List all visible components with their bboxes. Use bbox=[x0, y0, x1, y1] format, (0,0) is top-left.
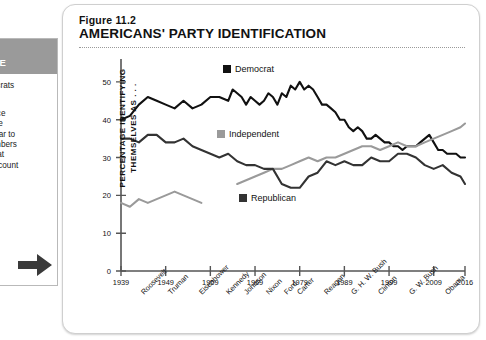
independent-swatch-icon bbox=[217, 130, 225, 138]
sidebar-body: mocrats d Since s the ppear to numbers W… bbox=[0, 74, 57, 203]
sidebar-paragraph-1: mocrats d bbox=[0, 81, 54, 102]
y-tick-30: 30 bbox=[95, 153, 111, 162]
sidebar-header-line-2: NCE bbox=[0, 57, 53, 68]
figure-title: AMERICANS' PARTY IDENTIFICATION bbox=[79, 26, 326, 41]
republican-swatch-icon bbox=[239, 194, 247, 202]
x-tick-1939: 1939 bbox=[113, 278, 129, 287]
y-tick-40: 40 bbox=[95, 115, 111, 124]
democrat-swatch-icon bbox=[223, 65, 231, 73]
sidebar-paragraph-2: Since s the ppear to numbers What t acco… bbox=[0, 109, 54, 192]
y-tick-10: 10 bbox=[95, 229, 111, 238]
figure-divider bbox=[79, 47, 465, 48]
legend-label-democrat: Democrat bbox=[235, 64, 274, 74]
sidebar-header-line-1: G bbox=[0, 46, 53, 57]
y-tick-0: 0 bbox=[95, 267, 111, 276]
legend-label-republican: Republican bbox=[251, 193, 296, 203]
figure-card: Figure 11.2 AMERICANS' PARTY IDENTIFICAT… bbox=[62, 4, 480, 334]
sidebar-header: G NCE bbox=[0, 39, 57, 74]
legend-label-independent: Independent bbox=[229, 129, 279, 139]
y-tick-20: 20 bbox=[95, 191, 111, 200]
y-tick-50: 50 bbox=[95, 77, 111, 86]
sidebar-arrow-row bbox=[0, 243, 58, 287]
right-arrow-icon[interactable] bbox=[18, 254, 52, 276]
legend-item-independent: Independent bbox=[217, 129, 279, 139]
figure-number: Figure 11.2 bbox=[79, 14, 136, 26]
legend-item-republican: Republican bbox=[239, 193, 296, 203]
chart-plot-area: PERCENTAGE IDENTIFYING THEMSELVES AS . .… bbox=[77, 53, 469, 329]
legend-item-democrat: Democrat bbox=[223, 64, 274, 74]
y-axis-label: PERCENTAGE IDENTIFYING THEMSELVES AS . .… bbox=[117, 53, 139, 203]
